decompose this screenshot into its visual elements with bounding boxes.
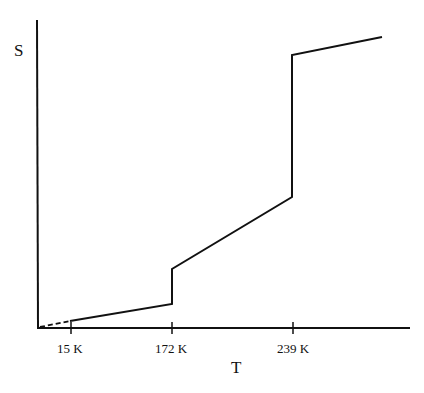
curve-entropy bbox=[70, 37, 382, 321]
entropy-temperature-diagram: S T 15 K 172 K 239 K bbox=[0, 0, 424, 393]
y-axis bbox=[37, 20, 38, 328]
y-axis-label: S bbox=[14, 41, 23, 60]
x-axis-label: T bbox=[231, 358, 242, 377]
tick-label-239k: 239 K bbox=[277, 341, 310, 356]
curve-dashed-extrapolation bbox=[40, 321, 70, 327]
tick-label-172k: 172 K bbox=[155, 341, 188, 356]
tick-label-15k: 15 K bbox=[57, 341, 83, 356]
